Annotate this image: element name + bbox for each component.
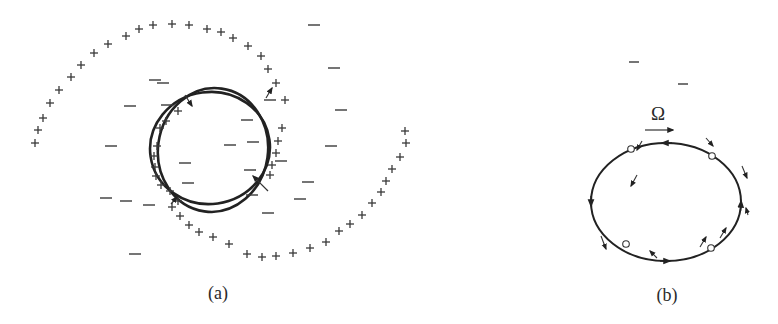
plus-icon: [346, 220, 354, 228]
plus-icon: [388, 165, 396, 173]
plus-icon: [168, 203, 176, 211]
plus-icon: [281, 96, 289, 104]
plus-icon: [149, 21, 157, 29]
plus-icon: [244, 42, 252, 50]
plus-icon: [55, 86, 63, 94]
plus-icon: [39, 114, 47, 122]
open-point: [623, 241, 630, 248]
plus-icon: [278, 124, 286, 132]
plus-icon: [272, 79, 280, 87]
plus-icon: [31, 139, 39, 147]
plus-icon: [274, 137, 282, 145]
plus-icon: [377, 188, 385, 196]
orbit-direction-arrow-icon: [741, 201, 742, 211]
ring-ellipse: [150, 81, 276, 219]
open-point: [708, 245, 715, 252]
plus-icon: [46, 99, 54, 107]
positive-charge-marks: [31, 20, 410, 261]
plus-icon: [272, 252, 280, 260]
plus-icon: [104, 40, 112, 48]
plus-icon: [209, 233, 217, 241]
plus-icon: [289, 249, 297, 257]
plus-icon: [335, 227, 343, 235]
plus-icon: [77, 61, 85, 69]
plus-icon: [257, 52, 265, 60]
plus-icon: [264, 65, 272, 73]
plus-icon: [153, 142, 161, 150]
plus-icon: [217, 28, 225, 36]
ring-ellipse: [143, 84, 277, 212]
velocity-arrow-icon: [742, 166, 747, 178]
plus-icon: [195, 228, 203, 236]
plus-icon: [229, 34, 237, 42]
velocity-arrow-icon: [746, 208, 748, 215]
panel-b-orbit: Ω (b): [591, 62, 748, 306]
plus-icon: [401, 127, 409, 135]
plus-icon: [243, 250, 251, 258]
plus-icon: [34, 126, 42, 134]
panel-a-bar-spiral: (a): [31, 20, 410, 304]
plus-icon: [176, 212, 184, 220]
plus-icon: [306, 244, 314, 252]
orbit-open-points: [623, 146, 716, 252]
omega-symbol: Ω: [651, 103, 665, 124]
open-point: [628, 146, 635, 153]
velocity-arrow-icon: [650, 251, 657, 258]
plus-icon: [203, 25, 211, 33]
plus-icon: [90, 49, 98, 57]
plus-icon: [67, 73, 75, 81]
arrow-icon: [266, 88, 272, 98]
plus-icon: [225, 240, 233, 248]
plus-icon: [266, 171, 274, 179]
negative-marks: [629, 62, 688, 84]
plus-icon: [272, 149, 280, 157]
plus-icon: [185, 221, 193, 229]
plus-icon: [402, 139, 410, 147]
plus-icon: [396, 153, 404, 161]
plus-icon: [368, 199, 376, 207]
panel-b-label: (b): [657, 285, 678, 306]
velocity-arrow-icon: [706, 138, 713, 146]
plus-icon: [358, 211, 366, 219]
plus-icon: [135, 25, 143, 33]
panel-a-label: (a): [208, 283, 228, 304]
plus-icon: [122, 32, 130, 40]
orbit-ellipse: [591, 143, 741, 261]
velocity-arrow-icon: [720, 228, 726, 238]
plus-icon: [185, 21, 193, 29]
open-point: [709, 153, 716, 160]
velocity-arrow-icon: [631, 175, 637, 186]
elliptical-orbit: [591, 138, 748, 261]
figure-canvas: (a) Ω (b): [0, 0, 778, 324]
plus-icon: [168, 20, 176, 28]
plus-icon: [382, 177, 390, 185]
negative-charge-marks: [100, 25, 347, 254]
bar-rings: [143, 81, 277, 219]
plus-icon: [322, 238, 330, 246]
velocity-arrow-icon: [700, 237, 706, 247]
plus-icon: [258, 253, 266, 261]
